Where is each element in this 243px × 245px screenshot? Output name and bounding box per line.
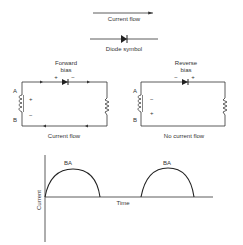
forward-source-minus: − bbox=[29, 112, 33, 118]
reverse-terminal-b: B bbox=[133, 117, 137, 123]
y-axis-label: Current bbox=[36, 190, 42, 210]
x-axis-label: Time bbox=[116, 200, 129, 206]
pulse-1 bbox=[45, 169, 100, 197]
forward-bias-title-2: bias bbox=[60, 67, 71, 73]
resistor-icon bbox=[105, 98, 109, 115]
forward-diode-icon bbox=[62, 79, 68, 85]
pulse-label-1: BA bbox=[64, 160, 72, 166]
reverse-bias-circuit bbox=[138, 79, 227, 126]
reverse-diode-plus: + bbox=[191, 74, 195, 80]
flow-marker-icon bbox=[87, 81, 90, 84]
diode-symbol-legend-label: Diode symbol bbox=[106, 46, 142, 52]
forward-terminal-a: A bbox=[13, 88, 17, 94]
flow-marker-icon bbox=[40, 81, 43, 84]
coil-icon bbox=[19, 95, 24, 112]
reverse-caption: No current flow bbox=[164, 133, 204, 139]
pulse-label-2: BA bbox=[163, 160, 171, 166]
current-time-graph bbox=[45, 155, 213, 242]
forward-diode-plus: + bbox=[54, 74, 58, 80]
pulse-2 bbox=[141, 168, 194, 197]
reverse-bias-title-2: bias bbox=[180, 67, 191, 73]
forward-terminal-b: B bbox=[13, 117, 17, 123]
forward-bias-title: Forward bbox=[55, 60, 77, 66]
flow-marker-icon bbox=[85, 125, 88, 128]
flow-marker-icon bbox=[43, 125, 46, 128]
forward-diode-minus: − bbox=[71, 74, 75, 80]
diode-symbol-icon bbox=[90, 35, 158, 43]
reverse-bias-title: Reverse bbox=[175, 60, 197, 66]
reverse-diode-icon bbox=[182, 79, 188, 85]
coil-icon bbox=[138, 95, 143, 112]
forward-bias-circuit bbox=[19, 79, 109, 128]
current-flow-legend-label: Current flow bbox=[108, 16, 140, 22]
forward-source-plus: + bbox=[29, 96, 33, 102]
reverse-source-plus: + bbox=[150, 110, 154, 116]
forward-caption: Current flow bbox=[48, 133, 80, 139]
reverse-diode-minus: − bbox=[174, 74, 178, 80]
reverse-source-minus: − bbox=[150, 96, 154, 102]
reverse-terminal-a: A bbox=[133, 88, 137, 94]
resistor-icon bbox=[223, 98, 227, 115]
